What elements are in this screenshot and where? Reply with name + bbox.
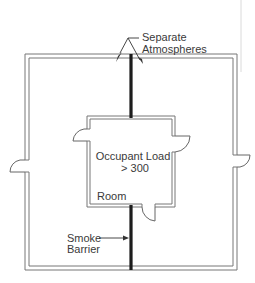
outer-right-door — [237, 155, 250, 167]
occupant-load-label: Occupant Load — [96, 150, 171, 162]
separate-atmospheres-label-2: Atmospheres — [142, 43, 207, 55]
room-right-door — [175, 136, 190, 152]
room-label: Room — [97, 190, 126, 202]
occupant-load-value: > 300 — [121, 162, 149, 174]
outer-left-door — [10, 160, 25, 172]
room-bottom-door — [142, 207, 155, 221]
separate-atmospheres-label-1: Separate — [142, 31, 187, 43]
room-left-door — [73, 129, 87, 141]
floor-plan-diagram: Separate Atmospheres Occupant Load > 300… — [0, 0, 255, 283]
smoke-barrier-label-2: Barrier — [67, 243, 100, 255]
arrowhead-icon — [123, 236, 129, 241]
